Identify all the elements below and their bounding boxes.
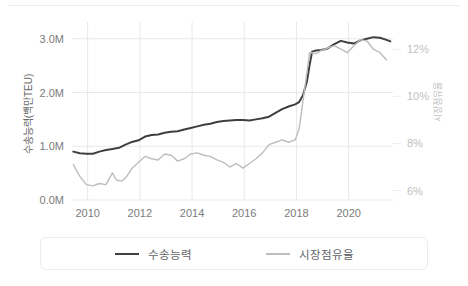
x-axis-tick-label: 2010	[75, 207, 99, 219]
x-axis-tick-label: 2018	[284, 207, 308, 219]
y-axis-left-tick-label: 1.0M	[40, 140, 64, 152]
y-axis-left-ticks: 0.0M1.0M2.0M3.0M	[40, 33, 64, 206]
chart-card: 0.0M1.0M2.0M3.0M 6%8%10%12% 201020122014…	[0, 0, 468, 286]
x-axis-tick-label: 2014	[180, 207, 204, 219]
gridlines	[72, 22, 393, 200]
y-axis-left-title: 수송능력(백만TEU)	[23, 74, 34, 155]
y-axis-left-tick-label: 0.0M	[40, 194, 64, 206]
x-axis-ticks: 201020122014201620182020	[75, 207, 360, 219]
dual-axis-line-chart: 0.0M1.0M2.0M3.0M 6%8%10%12% 201020122014…	[0, 10, 468, 225]
chart-legend: 수송능력 시장점유율	[40, 237, 428, 270]
legend-label-1: 시장점유율	[299, 246, 354, 262]
legend-line-icon-1	[266, 253, 290, 255]
legend-line-icon-0	[115, 253, 139, 255]
series-lines	[73, 37, 390, 186]
chart-plot-area: 0.0M1.0M2.0M3.0M 6%8%10%12% 201020122014…	[0, 10, 468, 225]
y-axis-right-tick-label: 10%	[407, 90, 429, 102]
legend-label-0: 수송능력	[148, 246, 192, 262]
y-axis-right-tick-label: 12%	[407, 43, 429, 55]
x-axis-tick-label: 2012	[128, 207, 152, 219]
y-axis-left-tick-label: 2.0M	[40, 87, 64, 99]
top-divider	[8, 5, 460, 6]
y-axis-right-tick-label: 6%	[407, 185, 423, 197]
series-line-1	[73, 40, 386, 186]
legend-item-1[interactable]: 시장점유율	[266, 246, 354, 262]
y-axis-right-ticks: 6%8%10%12%	[393, 43, 429, 196]
x-axis-tick-label: 2016	[232, 207, 256, 219]
y-axis-right-tick-label: 8%	[407, 137, 423, 149]
series-line-0	[73, 37, 390, 154]
y-axis-left-tick-label: 3.0M	[40, 33, 64, 45]
x-axis-tick-label: 2020	[336, 207, 360, 219]
y-axis-right-title: 시장점유율	[432, 82, 443, 122]
legend-item-0[interactable]: 수송능력	[115, 246, 192, 262]
